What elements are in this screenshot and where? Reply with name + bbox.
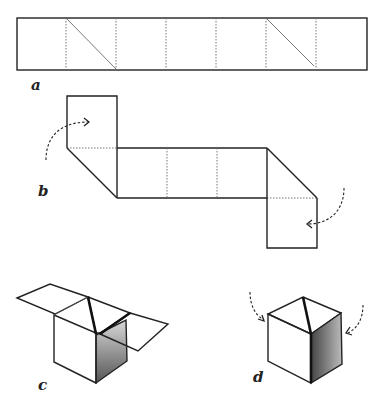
diagonal-edge — [67, 148, 117, 198]
cube-left-face — [268, 314, 311, 383]
fold-arrow-icon — [348, 305, 363, 333]
square-top-left — [67, 96, 117, 198]
panel-label-b: b — [38, 182, 49, 200]
panel-b-folded-strip: b — [38, 96, 344, 248]
fold-arrow-icon — [308, 188, 344, 224]
panel-label-d: d — [253, 368, 264, 386]
front-left-face — [54, 315, 96, 383]
panel-label-a: a — [31, 76, 41, 94]
panel-c-open-box: c — [17, 284, 168, 394]
panel-d-cube: d — [250, 292, 363, 386]
panel-a-strip: a — [17, 18, 367, 94]
seam-edge — [303, 297, 311, 334]
diagonal-fold-line — [267, 19, 314, 66]
strip-outline — [17, 18, 367, 70]
arrowhead-icon — [346, 327, 352, 335]
inner-shaded-face — [96, 320, 127, 383]
diagram-canvas: a b c — [0, 0, 382, 395]
left-flap — [17, 284, 88, 314]
diagonal-fold-line — [67, 19, 116, 69]
fold-edge — [88, 297, 96, 334]
arrowhead-icon — [84, 118, 89, 126]
panel-label-c: c — [38, 376, 47, 394]
fold-edge — [54, 297, 88, 315]
diagonal-edge — [267, 148, 317, 198]
